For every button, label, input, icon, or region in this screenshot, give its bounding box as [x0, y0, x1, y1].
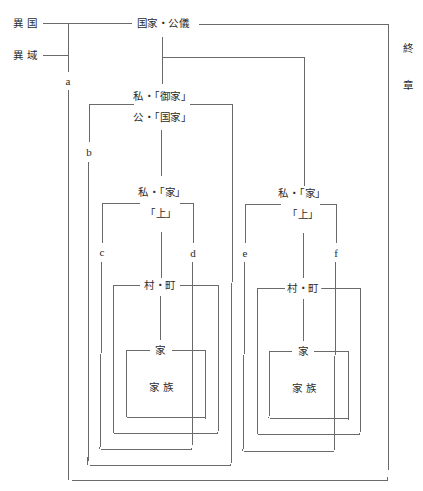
boundary-letter-a: a [66, 74, 71, 88]
diagram-lines [0, 0, 423, 491]
label-kami-left: 「上」 [143, 207, 179, 219]
label-kazoku-right: 家 族 [290, 382, 319, 394]
boundary-letter-e: e [243, 246, 248, 260]
label-muramachi-right: 村・町 [285, 282, 321, 294]
label-iiki: 異 域 [11, 49, 40, 61]
boundary-letter-d: d [190, 246, 196, 260]
boundary-letter-f: f [334, 246, 338, 260]
label-gokenke: 私・「御家」 [131, 90, 193, 102]
label-ie-right: 家 [296, 345, 311, 357]
label-kokka: 公・「国家」 [131, 111, 193, 123]
label-kami-right: 「上」 [285, 208, 321, 220]
label-muramachi-left: 村・町 [142, 279, 178, 291]
label-ie-left: 家 [153, 344, 168, 356]
boundary-letter-b: b [86, 145, 92, 159]
label-kokka-kogi: 国家・公儀 [135, 17, 192, 29]
label-kazoku-left: 家 族 [147, 381, 176, 393]
label-ikoku: 異 国 [11, 17, 40, 29]
label-ie-private-right: 私・「家」 [276, 187, 328, 199]
boundary-letter-c: c [100, 245, 105, 259]
label-ie-private-left: 私・「家」 [136, 186, 188, 198]
label-shusho-2: 章 [403, 77, 413, 92]
label-shusho-1: 終 [403, 40, 413, 55]
